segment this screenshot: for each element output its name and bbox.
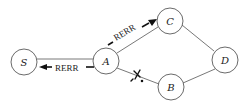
link-break-icon — [131, 70, 143, 82]
svg-text:S: S — [21, 57, 28, 68]
rerr-label-c: RERR — [112, 22, 137, 43]
rerr-label-s: RERR — [55, 63, 79, 73]
svg-text:D: D — [220, 55, 229, 66]
edge-a-b-broken — [117, 68, 159, 84]
rerr-message-a-to-s: RERR — [39, 63, 94, 73]
node-b: B — [158, 74, 184, 100]
node-s: S — [11, 49, 37, 75]
node-c: C — [157, 8, 183, 34]
svg-text:A: A — [101, 56, 109, 67]
arrow-right-icon — [148, 19, 157, 26]
ad-hoc-route-error-diagram: RERR RERR S A C D B — [0, 0, 248, 102]
edge-d-b — [183, 69, 215, 83]
arrow-left-icon — [39, 64, 47, 70]
svg-text:C: C — [166, 16, 174, 27]
edge-c-d — [182, 25, 214, 51]
svg-text:B: B — [166, 82, 174, 93]
node-a: A — [93, 48, 119, 74]
node-d: D — [212, 47, 238, 73]
